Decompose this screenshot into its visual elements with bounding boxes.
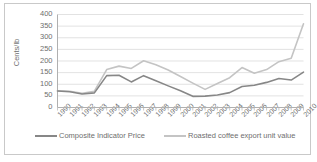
legend-item-composite-indicator-price: Composite Indicator Price — [35, 131, 145, 140]
legend-label: Composite Indicator Price — [59, 131, 145, 140]
series-lines — [58, 24, 304, 97]
legend-swatch-icon — [35, 135, 57, 137]
x-tick-marks — [58, 108, 304, 111]
legend-label: Roasted coffee export unit value — [188, 131, 295, 140]
chart-legend: Composite Indicator Price Roasted coffee… — [8, 131, 308, 145]
legend-item-roasted-coffee-export-unit-value: Roasted coffee export unit value — [164, 131, 295, 140]
legend-swatch-icon — [164, 135, 186, 137]
chart-container: Cents/lb 050100150200250300350400 199019… — [0, 0, 317, 162]
